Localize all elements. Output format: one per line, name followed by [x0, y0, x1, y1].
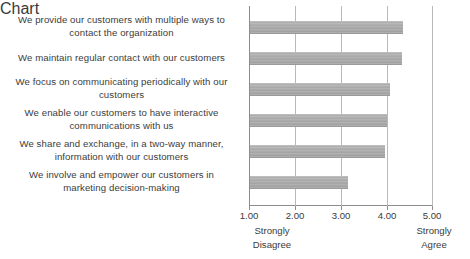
x-tick-label-3: 3.00 [318, 210, 364, 222]
bar-1 [250, 52, 402, 65]
bar-5 [250, 176, 348, 189]
gridline-5 [432, 6, 433, 206]
category-label-5-line1: We involve and empower our customers in [0, 169, 243, 182]
category-label-column: We provide our customers with multiple w… [0, 0, 243, 206]
category-label-0-line2: contact the organization [0, 27, 243, 40]
category-label-4-line2: information with our customers [0, 151, 243, 164]
x-tick-label-1: 1.00 [226, 210, 272, 222]
category-label-5: We involve and empower our customers in … [0, 169, 243, 194]
bar-2 [250, 83, 390, 96]
category-label-1-line1: We maintain regular contact with our cus… [0, 52, 243, 65]
bar-4 [250, 145, 385, 158]
scale-anchor-high: Strongly Agree [394, 224, 470, 251]
scale-anchor-low-line2: Disagree [232, 238, 312, 252]
category-label-2-line2: customers [0, 89, 243, 102]
scale-anchor-high-line2: Agree [394, 238, 470, 252]
x-tick-label-2: 2.00 [272, 210, 318, 222]
bar-3 [250, 114, 387, 127]
scale-anchor-low-line1: Strongly [232, 224, 312, 238]
x-axis-tick-labels: 1.00 2.00 3.00 4.00 5.00 [0, 210, 470, 224]
x-tick-label-5: 5.00 [409, 210, 455, 222]
gridline-4 [387, 6, 388, 206]
scale-anchor-high-line1: Strongly [394, 224, 470, 238]
category-label-3-line1: We enable our customers to have interact… [0, 107, 243, 120]
category-label-0-line1: We provide our customers with multiple w… [0, 14, 243, 27]
category-label-2-line1: We focus on communicating periodically w… [0, 76, 243, 89]
category-label-1: We maintain regular contact with our cus… [0, 52, 243, 65]
bar-0 [250, 21, 403, 34]
category-label-3-line2: communications with us [0, 120, 243, 133]
plot-area [249, 6, 433, 206]
category-label-4: We share and exchange, in a two-way mann… [0, 138, 243, 163]
scale-anchor-low: Strongly Disagree [232, 224, 312, 251]
category-label-5-line2: marketing decision-making [0, 182, 243, 195]
x-tick-label-4: 4.00 [364, 210, 410, 222]
category-label-0: We provide our customers with multiple w… [0, 14, 243, 39]
category-label-3: We enable our customers to have interact… [0, 107, 243, 132]
category-label-4-line1: We share and exchange, in a two-way mann… [0, 138, 243, 151]
horizontal-bar-chart: We provide our customers with multiple w… [0, 0, 470, 259]
category-label-2: We focus on communicating periodically w… [0, 76, 243, 101]
